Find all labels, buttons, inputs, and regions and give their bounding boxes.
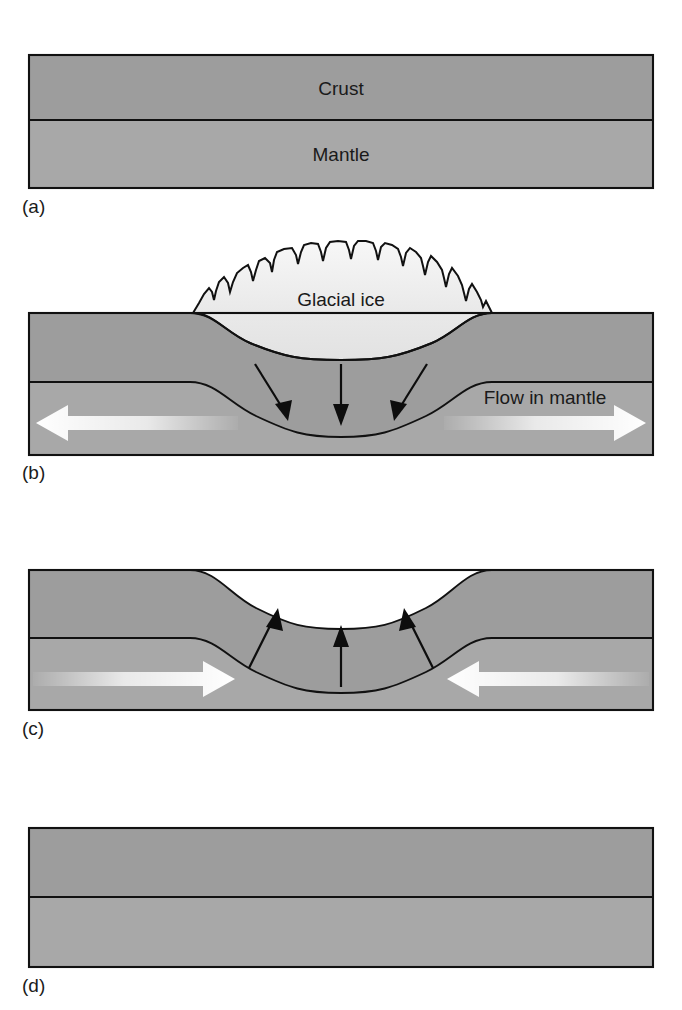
panel-d-label: (d)	[22, 975, 45, 996]
panel-a-mantle-label: Mantle	[312, 144, 369, 165]
panel-c: (c)	[22, 570, 653, 739]
panel-a: Crust Mantle (a)	[22, 55, 653, 217]
panel-d: (d)	[22, 828, 653, 996]
panel-b-label: (b)	[22, 462, 45, 483]
isostasy-figure: Crust Mantle (a)	[0, 0, 682, 1010]
panel-c-label: (c)	[22, 718, 44, 739]
panel-d-crust-layer	[29, 828, 653, 897]
panel-d-mantle-layer	[29, 897, 653, 967]
panel-a-crust-label: Crust	[318, 78, 364, 99]
panel-a-label: (a)	[22, 196, 45, 217]
panel-b-glacial-ice-label: Glacial ice	[297, 289, 385, 310]
panel-b-flow-in-mantle-label: Flow in mantle	[484, 387, 607, 408]
panel-b: Glacial ice Flow in mantle (b)	[22, 241, 653, 483]
